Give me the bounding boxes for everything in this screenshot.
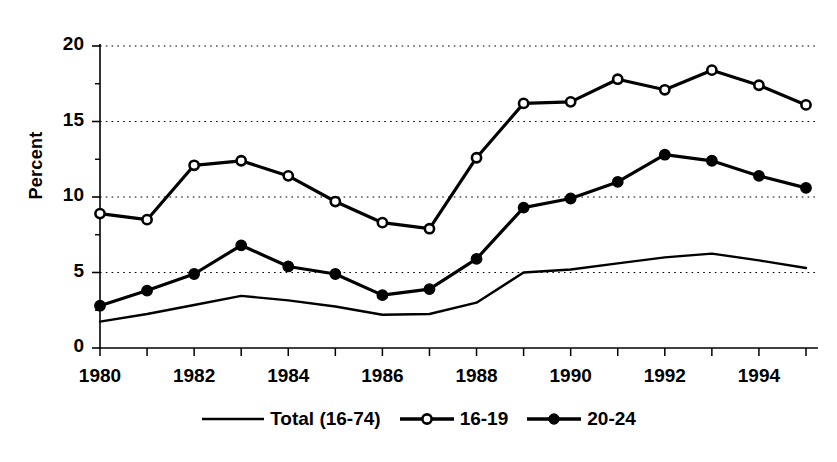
legend-item: 20-24 (526, 408, 636, 430)
axes (92, 44, 818, 356)
data-point (330, 269, 340, 279)
legend-label: Total (16-74) (270, 408, 381, 430)
data-point (707, 66, 716, 75)
chart-legend: Total (16-74)16-1920-24 (0, 408, 837, 430)
data-point (331, 197, 340, 206)
data-point (801, 183, 811, 193)
data-point (472, 153, 481, 162)
data-point (142, 285, 152, 295)
data-point (424, 284, 434, 294)
data-point (754, 81, 763, 90)
data-point (660, 85, 669, 94)
data-point (565, 193, 575, 203)
data-point (471, 254, 481, 264)
data-point (236, 240, 246, 250)
data-point (237, 156, 246, 165)
series-16-19 (95, 66, 810, 234)
data-point (519, 99, 528, 108)
legend-filled-circle-icon (549, 414, 559, 424)
series-total-16-74 (100, 254, 806, 322)
legend-label: 16-19 (460, 408, 509, 430)
data-point (284, 171, 293, 180)
data-point (378, 218, 387, 227)
legend-marker-swatch (399, 410, 455, 428)
data-point (95, 209, 104, 218)
legend-label: 20-24 (587, 408, 636, 430)
data-point (707, 156, 717, 166)
data-point (566, 97, 575, 106)
legend-line-swatch (201, 410, 265, 428)
data-point (613, 177, 623, 187)
legend-open-circle-icon (422, 414, 431, 423)
data-point (142, 215, 151, 224)
data-point (518, 202, 528, 212)
data-point (613, 75, 622, 84)
data-point (283, 261, 293, 271)
series-20-24 (95, 150, 811, 311)
series-line (100, 70, 806, 229)
data-point (660, 150, 670, 160)
legend-item: Total (16-74) (201, 408, 381, 430)
legend-item: 16-19 (399, 408, 509, 430)
data-point (425, 224, 434, 233)
data-point (95, 301, 105, 311)
legend-marker-swatch (526, 410, 582, 428)
data-point (377, 290, 387, 300)
data-point (190, 161, 199, 170)
series-line (100, 254, 806, 322)
data-point (754, 171, 764, 181)
unemployment-rate-line-chart: Percent 05101520 19801982198419861988199… (0, 0, 837, 462)
plot-area (0, 0, 837, 462)
series-line (100, 155, 806, 306)
data-point (189, 269, 199, 279)
data-point (801, 100, 810, 109)
